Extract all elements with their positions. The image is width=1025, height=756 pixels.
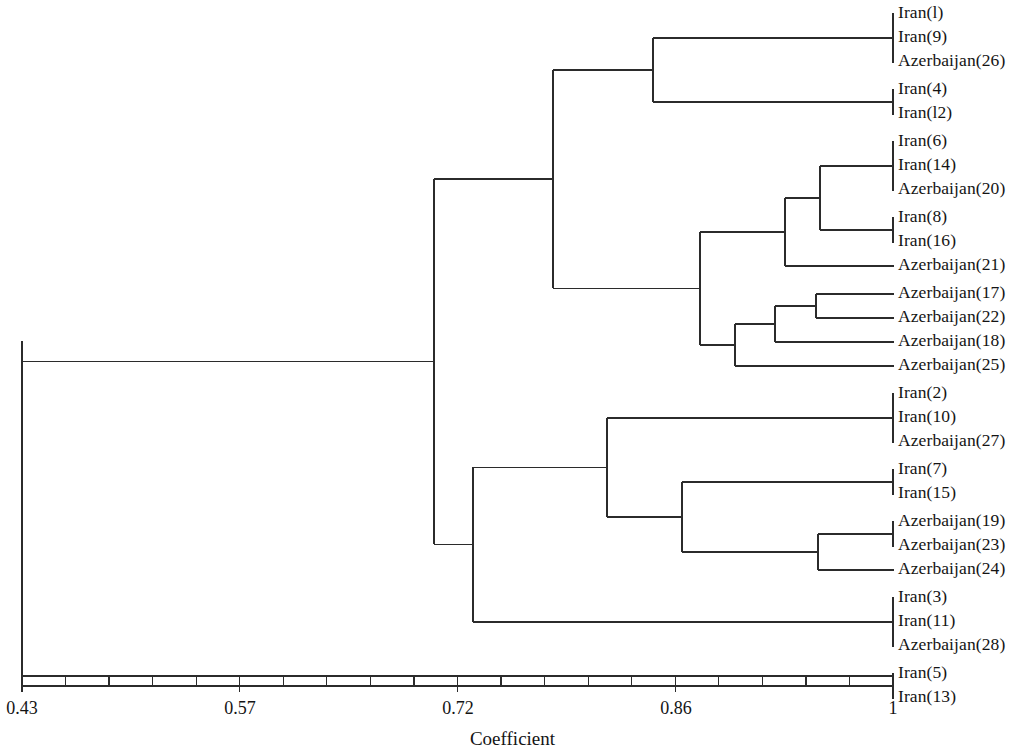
axis-tick-label: 0.86	[660, 698, 692, 719]
coefficient-axis	[22, 676, 893, 692]
leaf-label: Iran(16)	[898, 231, 956, 249]
leaf-label: Iran(8)	[898, 207, 947, 225]
leaf-label: Azerbaijan(18)	[898, 331, 1005, 349]
axis-title: Coefficient	[0, 728, 1025, 750]
leaf-label: Iran(15)	[898, 483, 956, 501]
leaf-label: Azerbaijan(25)	[898, 355, 1005, 373]
leaf-label: Azerbaijan(28)	[898, 635, 1005, 653]
axis-tick-label: 1	[889, 698, 898, 719]
leaf-label: Iran(3)	[898, 587, 947, 605]
leaf-label: Azerbaijan(24)	[898, 559, 1005, 577]
leaf-label: Azerbaijan(22)	[898, 307, 1005, 325]
leaf-label: Iran(2)	[898, 383, 947, 401]
leaf-label: Iran(7)	[898, 459, 947, 477]
dendrogram-plot	[0, 0, 1025, 756]
leaf-label: Iran(10)	[898, 407, 956, 425]
leaf-label: Azerbaijan(17)	[898, 283, 1005, 301]
leaf-label: Iran(9)	[898, 27, 947, 45]
leaf-label: Azerbaijan(20)	[898, 179, 1005, 197]
leaf-label: Azerbaijan(26)	[898, 51, 1005, 69]
axis-tick-label: 0.72	[442, 698, 474, 719]
dendrogram-branches	[22, 14, 894, 698]
axis-tick-label: 0.43	[6, 698, 38, 719]
leaf-label: Azerbaijan(23)	[898, 535, 1005, 553]
dendrogram-figure: Iran(l)Iran(9)Azerbaijan(26)Iran(4)Iran(…	[0, 0, 1025, 756]
leaf-label: Azerbaijan(19)	[898, 511, 1005, 529]
leaf-label: Iran(6)	[898, 131, 947, 149]
leaf-label: Azerbaijan(27)	[898, 431, 1005, 449]
leaf-label: Iran(13)	[898, 687, 956, 705]
leaf-label: Iran(11)	[898, 611, 955, 629]
axis-tick-label: 0.57	[224, 698, 256, 719]
leaf-label: Iran(4)	[898, 79, 947, 97]
leaf-label: Iran(5)	[898, 663, 947, 681]
leaf-label: Azerbaijan(21)	[898, 255, 1005, 273]
leaf-label: Iran(l)	[898, 3, 943, 21]
leaf-label: Iran(14)	[898, 155, 956, 173]
leaf-label: Iran(l2)	[898, 103, 952, 121]
